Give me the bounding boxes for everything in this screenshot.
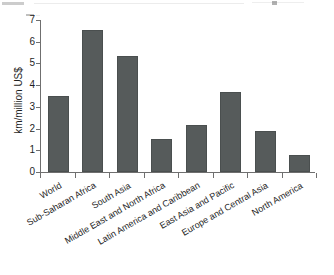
y-axis-tick [36, 85, 41, 86]
bar [151, 139, 172, 172]
figure: km/million US$ 01234567 WorldSub-Saharan… [0, 0, 334, 275]
bar-chart-plot-area: km/million US$ 01234567 WorldSub-Saharan… [0, 0, 334, 275]
y-axis-tick [36, 63, 41, 64]
bar [255, 131, 276, 172]
bar [117, 56, 138, 172]
x-axis-tick [178, 173, 179, 178]
bar [289, 155, 310, 172]
x-axis-tick [213, 173, 214, 178]
y-axis-tick-label: 4 [5, 80, 35, 90]
x-axis-tick [144, 173, 145, 178]
y-axis-tick-label: 5 [5, 58, 35, 68]
bar [82, 30, 103, 172]
bar [220, 92, 241, 172]
y-axis-tick [36, 150, 41, 151]
bar [48, 96, 69, 172]
x-axis-tick [316, 173, 317, 178]
y-axis-tick [36, 129, 41, 130]
bar [186, 125, 207, 172]
x-axis-tick [40, 173, 41, 178]
x-axis-tick [247, 173, 248, 178]
x-axis-tick [282, 173, 283, 178]
y-axis-tick-label: 6 [5, 37, 35, 47]
x-axis-tick [109, 173, 110, 178]
x-axis-tick [75, 173, 76, 178]
y-axis-tick [36, 42, 41, 43]
y-axis-tick-label: 2 [5, 124, 35, 134]
x-axis-tick-label: World [38, 180, 63, 200]
y-axis-tick [36, 20, 41, 21]
y-axis-tick-label: 7 [5, 15, 35, 25]
y-axis-tick-label: 1 [5, 145, 35, 155]
y-axis-tick-label: 0 [5, 167, 35, 177]
y-axis-tick-label: 3 [5, 102, 35, 112]
y-axis-tick [36, 107, 41, 108]
